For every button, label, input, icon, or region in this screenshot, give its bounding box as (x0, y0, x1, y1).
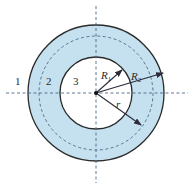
region-2-label: 2 (46, 75, 52, 87)
region-3-label: 3 (73, 75, 79, 87)
region-1-label: 1 (15, 75, 21, 87)
shell-diagram: 1 2 3 R1 R2 r (0, 0, 196, 186)
r2-subscript: 2 (138, 76, 142, 84)
r1-subscript: 1 (108, 75, 112, 83)
r-label: r (116, 98, 121, 110)
center-point (94, 91, 98, 95)
